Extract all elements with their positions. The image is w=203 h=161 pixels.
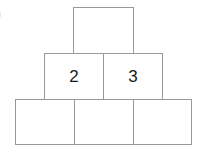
pyramid-middle-right-cell[interactable]: 3 [103, 53, 163, 100]
pyramid-top-cell[interactable] [73, 7, 134, 54]
pyramid-bottom-left-cell[interactable] [15, 99, 75, 145]
pyramid-bottom-right-cell[interactable] [133, 99, 192, 145]
cut-off-label-mark: ) [0, 8, 1, 20]
pyramid-middle-left-cell[interactable]: 2 [44, 53, 104, 100]
pyramid-bottom-middle-cell[interactable] [74, 99, 134, 145]
